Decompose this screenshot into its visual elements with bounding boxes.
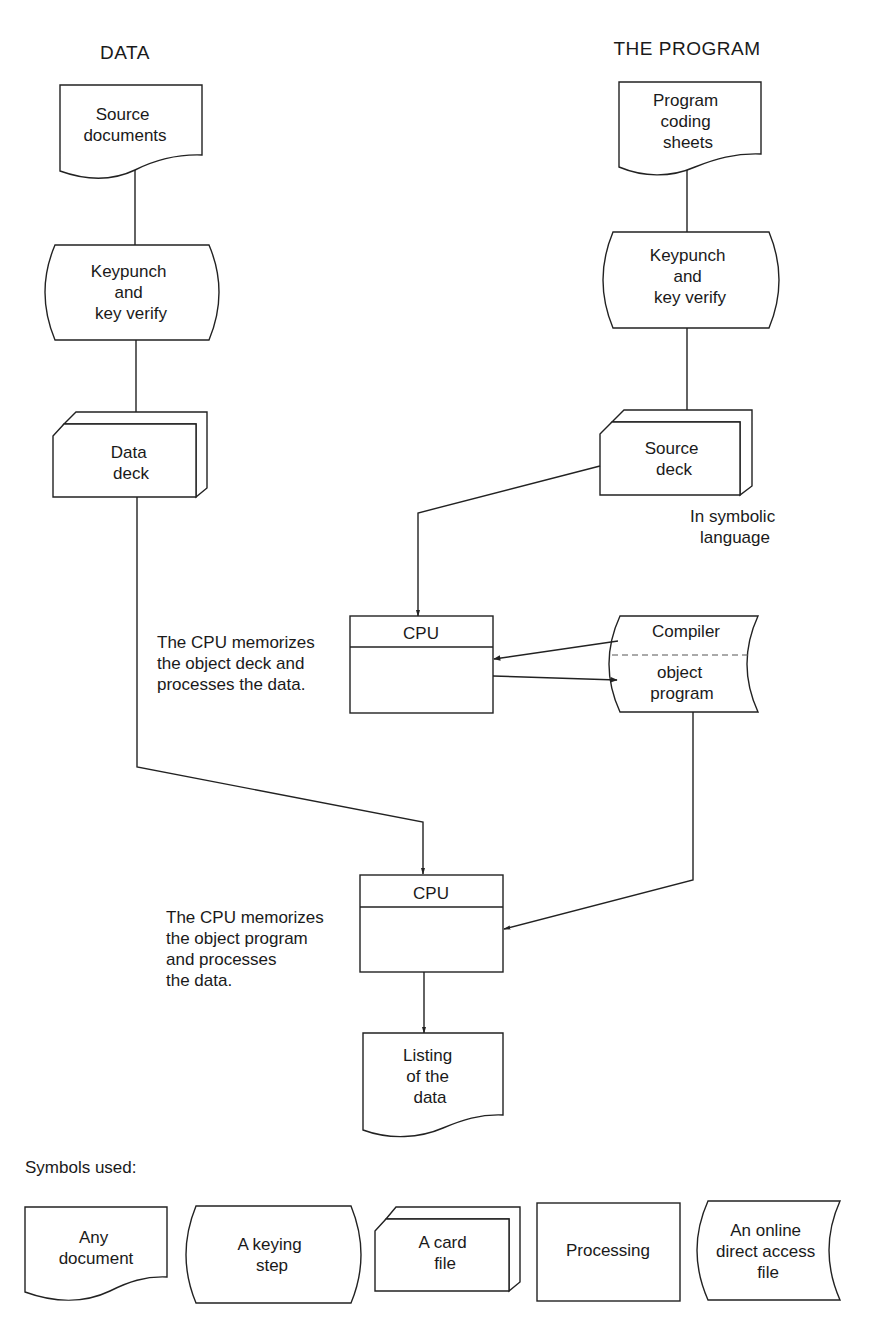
source-deck-to-cpu1-arrow [418,466,600,616]
cpu1-label: CPU [403,624,439,643]
legend-processing: Processing [537,1203,680,1301]
label-line: A keying [238,1235,302,1254]
label-line: and [114,283,142,302]
cpu1-note: The CPU memorizes the object deck and pr… [157,633,320,694]
label-line: Listing [403,1046,452,1065]
source-deck-note: In symbolic language [690,507,780,547]
cpu2-note: The CPU memorizes the object program and… [166,908,329,990]
cpu1-node: CPU [350,616,493,713]
label-line: key verify [654,288,726,307]
label-line: coding [661,112,711,131]
label-line: object [657,663,703,682]
label-line: file [434,1254,456,1273]
legend-keying-step: A keying step [186,1206,361,1303]
legend-title: Symbols used: [25,1158,137,1177]
label-line: Keypunch [650,246,726,265]
label-line: Source [96,105,150,124]
data-deck-node: Data deck [53,412,207,497]
listing-node: Listing of the data [363,1033,503,1137]
compiler-to-cpu1-arrow [494,641,618,659]
label-line: and [673,267,701,286]
label-line: An online [730,1221,801,1240]
cpu2-label: CPU [413,884,449,903]
label-line: Data [111,443,147,462]
label-line: document [59,1249,134,1268]
label-line: file [757,1263,779,1282]
keypunch-program-node: Keypunch and key verify [603,232,779,328]
legend-online-file: An online direct access file [697,1201,840,1300]
label-line: Any [79,1228,109,1247]
label-line: deck [656,460,692,479]
flowchart: DATA THE PROGRAM Source documents Keypun… [0,0,878,1339]
legend-card-file: A card file [375,1207,520,1291]
source-documents-node: Source documents [60,85,202,178]
cpu2-node: CPU [360,875,503,972]
label-line: program [650,684,713,703]
keypunch-data-node: Keypunch and key verify [45,245,219,340]
source-deck-node: Source deck [600,410,752,495]
label-line: key verify [95,304,167,323]
object-program-to-cpu2-arrow [504,712,693,929]
label-line: A card [419,1233,467,1252]
label-line: step [256,1256,288,1275]
svg-text:Program coding she: Program coding sheets [653,91,723,152]
header-data: DATA [100,42,150,63]
legend-document: Any document [25,1207,167,1300]
label-line: Keypunch [91,262,167,281]
label-line: Processing [566,1241,650,1260]
program-coding-sheets-node: Program coding sheets [619,82,761,175]
label-line: documents [83,126,166,145]
label-line: data [413,1088,447,1107]
compiler-node: Compiler object program [609,616,758,712]
label-line: of the [406,1067,449,1086]
cpu1-to-compiler-arrow [493,676,617,680]
label-line: Source [645,439,699,458]
compiler-label: Compiler [652,622,720,641]
label-line: sheets [663,133,713,152]
label-line: direct access [716,1242,815,1261]
label-line: Program [653,91,718,110]
label-line: deck [113,464,149,483]
header-program: THE PROGRAM [614,38,761,59]
